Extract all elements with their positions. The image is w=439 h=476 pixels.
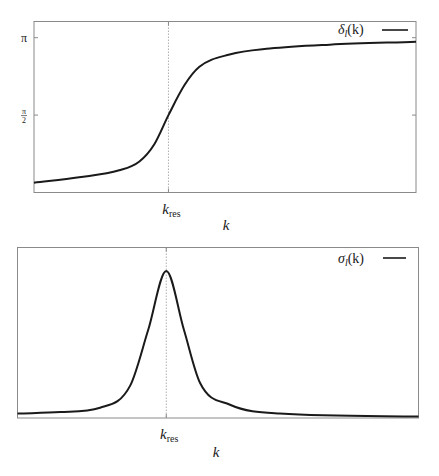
legend-label-top: δl(k)	[338, 22, 364, 39]
y-tick-label-pi-half-numerator: π	[22, 107, 26, 116]
x-axis-label-top: k	[223, 217, 230, 233]
plot-frame-top	[34, 22, 416, 193]
y-tick-label-pi-half-denominator: 2	[22, 116, 26, 125]
cross-section-curve	[18, 271, 419, 417]
plot-frame-bottom	[18, 248, 419, 419]
cross-section-panel: σl(k) kres k	[18, 248, 419, 461]
x-tick-label-kres-top: kres	[162, 201, 180, 219]
phase-shift-curve	[34, 42, 416, 183]
chart-canvas: ππ2 δl(k) kres k σl(k) kres k	[0, 0, 439, 476]
y-tick-label-pi: π	[21, 31, 27, 45]
x-axis-label-bottom: k	[213, 444, 220, 460]
legend-label-bottom: σl(k)	[338, 251, 364, 268]
x-tick-label-kres-bottom: kres	[160, 426, 178, 444]
phase-shift-panel: ππ2 δl(k) kres k	[21, 22, 416, 234]
